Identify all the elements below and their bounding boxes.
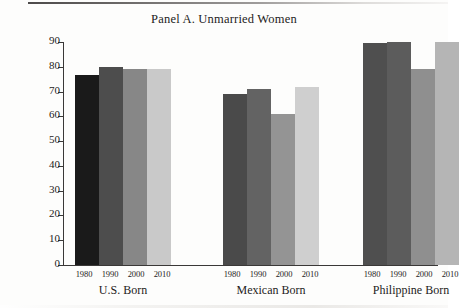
bar[interactable] [387,42,411,265]
year-tick-label: 2000 [124,269,148,279]
year-tick-labels: 1980199020002010 [360,269,462,279]
year-tick-label: 1990 [98,269,122,279]
year-tick-label: 1990 [246,269,270,279]
chart-title: Panel A. Unmarried Women [0,12,448,27]
year-tick-label: 1980 [220,269,244,279]
bar[interactable] [411,69,435,265]
bar-group-bars [363,42,459,265]
year-tick-label: 2010 [438,269,462,279]
y-tick-label: 70 [26,84,60,96]
group-label: Mexican Born [205,283,337,298]
bar[interactable] [75,75,99,265]
year-tick-label: 2000 [272,269,296,279]
bar-group-bars [75,42,171,265]
y-tick-label: 40 [26,158,60,170]
bar[interactable] [271,114,295,265]
year-tick-label: 2010 [150,269,174,279]
x-axis-line [63,265,438,266]
y-tick-label: 20 [26,207,60,219]
y-tick-label: 10 [26,232,60,244]
bar[interactable] [295,87,319,265]
group-label: U.S. Born [57,283,189,298]
bar[interactable] [123,69,147,265]
bar[interactable] [223,94,247,265]
bar[interactable] [99,67,123,265]
year-tick-label: 2010 [298,269,322,279]
y-tick-label: 0 [26,257,60,269]
year-tick-label: 1990 [386,269,410,279]
y-tick-label: 50 [26,133,60,145]
y-tick-label: 90 [26,34,60,46]
bar[interactable] [247,89,271,265]
group-label: Philippine Born [345,283,463,298]
year-tick-label: 2000 [412,269,436,279]
y-tick-label: 60 [26,108,60,120]
bar[interactable] [147,69,171,265]
bar[interactable] [363,43,387,265]
year-tick-labels: 1980199020002010 [220,269,322,279]
y-tick-label: 30 [26,183,60,195]
plot-area: 0102030405060708090 1980199020002010U.S.… [63,42,438,265]
year-tick-label: 1980 [72,269,96,279]
year-tick-label: 1980 [360,269,384,279]
y-tick-label: 80 [26,59,60,71]
year-tick-labels: 1980199020002010 [72,269,174,279]
bar[interactable] [435,42,459,265]
bar-group-bars [223,42,319,265]
